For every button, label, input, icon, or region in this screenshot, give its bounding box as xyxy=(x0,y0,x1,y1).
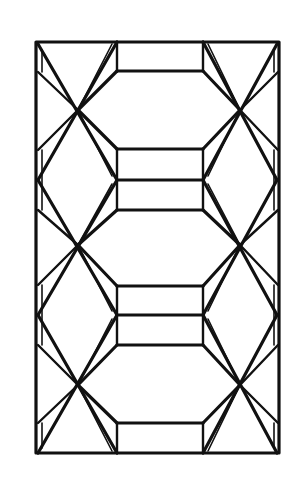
right-bevels xyxy=(240,50,278,448)
top-rectangle xyxy=(117,42,203,71)
right-diagonals xyxy=(203,42,277,453)
lattice-svg xyxy=(0,0,304,502)
lattice-diagram xyxy=(0,0,304,502)
bottom-rectangle xyxy=(117,423,203,453)
upper-middle-rectangles xyxy=(117,149,203,210)
hexagon-edges xyxy=(78,71,240,423)
left-bevels xyxy=(38,50,78,448)
lower-middle-rectangles xyxy=(117,286,203,345)
left-diagonals xyxy=(38,42,117,453)
inner-bevels xyxy=(78,44,240,451)
